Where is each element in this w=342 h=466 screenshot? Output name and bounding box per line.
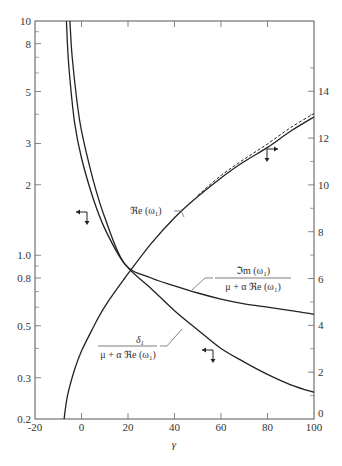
svg-text:μ + α ℜe (ω1): μ + α ℜe (ω1) — [100, 349, 155, 362]
x-tick-label: 100 — [306, 421, 323, 433]
y-right-tick-label: 10 — [318, 179, 330, 191]
y-right-tick-label: 6 — [318, 273, 324, 285]
x-tick-label: 60 — [216, 421, 228, 433]
x-tick-label: 40 — [169, 421, 181, 433]
arrow-markers — [76, 147, 278, 364]
y-right-tick-label: 8 — [318, 226, 324, 238]
curve-im-ratio — [70, 21, 314, 314]
y-left-tick-label: 8 — [26, 38, 32, 50]
plot-border — [35, 21, 314, 419]
label-delta-ratio: δ1 μ + α ℜe (ω1) — [98, 329, 182, 362]
curve-re-omega — [64, 117, 314, 419]
x-tick-label: 0 — [79, 421, 85, 433]
y-left-tick-label: 1.0 — [17, 249, 31, 261]
chart: -200204060801000.20.30.50.81.02358100246… — [0, 0, 342, 466]
svg-text:ℜe (ω1): ℜe (ω1) — [130, 205, 162, 218]
y-left-tick-label: 0.2 — [17, 413, 31, 425]
y-left-tick-label: 5 — [26, 86, 32, 98]
plot-frame — [35, 21, 314, 419]
y-right-tick-label: 12 — [318, 132, 329, 144]
y-left-tick-label: 0.5 — [17, 320, 31, 332]
svg-text:μ + α ℜe (ω1): μ + α ℜe (ω1) — [225, 281, 280, 294]
svg-text:ℑm (ω1): ℑm (ω1) — [236, 265, 270, 278]
axis-ticks: -200204060801000.20.30.50.81.02358100246… — [17, 15, 329, 433]
x-tick-label: 80 — [262, 421, 274, 433]
y-left-tick-label: 3 — [26, 137, 32, 149]
y-right-tick-label: 4 — [318, 319, 324, 331]
y-left-tick-label: 2 — [26, 179, 32, 191]
y-right-tick-label: 14 — [318, 85, 330, 97]
svg-text:δ1: δ1 — [136, 334, 144, 347]
x-axis-label: γ — [172, 438, 177, 450]
y-left-tick-label: 10 — [20, 15, 32, 27]
label-im-ratio: ℑm (ω1) μ + α ℜe (ω1) — [192, 265, 291, 294]
y-left-tick-label: 0.8 — [17, 272, 31, 284]
y-right-tick-label: 2 — [318, 366, 324, 378]
curve-delta-ratio — [66, 21, 314, 392]
y-left-tick-label: 0.3 — [17, 372, 31, 384]
y-right-tick-label: 0 — [318, 407, 324, 419]
x-tick-label: 20 — [123, 421, 135, 433]
